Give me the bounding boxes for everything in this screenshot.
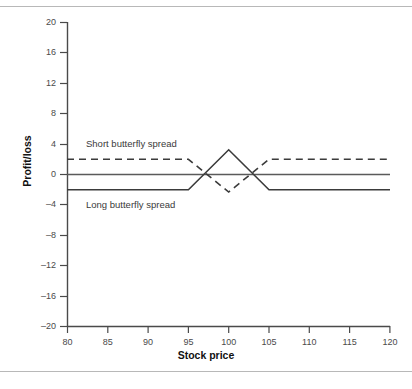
y-tick-label: 4: [30, 139, 56, 149]
y-tick-label: –20: [30, 321, 56, 331]
x-tick-label: 115: [335, 337, 365, 347]
x-tick-label: 90: [133, 337, 163, 347]
annotation-short-butterfly-spread: Short butterfly spread: [86, 138, 177, 149]
y-tick-label: –8: [30, 230, 56, 240]
x-tick-label: 120: [375, 337, 405, 347]
y-axis-title: Profit/loss: [21, 116, 33, 206]
x-tick-label: 85: [93, 337, 123, 347]
y-axis-ticks: [60, 23, 67, 327]
x-tick-label: 80: [53, 337, 83, 347]
y-tick-label: 16: [30, 47, 56, 57]
chart-plot-svg: [0, 0, 412, 389]
y-tick-label: –4: [30, 199, 56, 209]
series-short-butterfly-spread: [67, 159, 390, 192]
series-long-butterfly-spread: [67, 150, 390, 190]
y-tick-label: –12: [30, 260, 56, 270]
x-tick-label: 110: [294, 337, 324, 347]
chart-figure: 20 16 12 8 4 0 –4 –8 –12 –16 –20 80 85 9…: [0, 0, 412, 389]
annotation-long-butterfly-spread: Long butterfly spread: [86, 199, 175, 210]
y-tick-label: 20: [30, 17, 56, 27]
y-tick-label: –16: [30, 291, 56, 301]
x-tick-label: 95: [173, 337, 203, 347]
y-tick-label: 0: [30, 169, 56, 179]
x-tick-label: 100: [214, 337, 244, 347]
x-tick-label: 105: [254, 337, 284, 347]
y-tick-label: 8: [30, 108, 56, 118]
x-axis-title: Stock price: [0, 349, 412, 361]
y-tick-label: 12: [30, 78, 56, 88]
